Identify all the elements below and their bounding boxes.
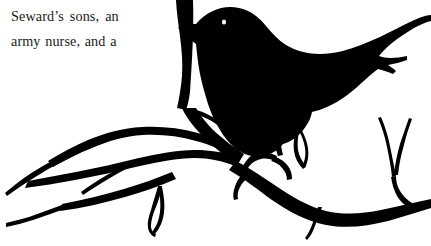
crow-eye xyxy=(222,19,226,24)
branch-trunk-top xyxy=(176,0,193,110)
branch-twig-fork-right-b xyxy=(394,118,412,175)
crow-on-branch-illustration xyxy=(0,0,431,246)
illustrated-text-page: Seward’s sons, an army nurse, and a xyxy=(0,0,431,246)
branch-twig-fork-right-stem xyxy=(391,176,412,208)
branch-twig-fork-right-a xyxy=(378,117,396,177)
branch-twig-lower-left xyxy=(6,205,64,227)
crow-foot-back xyxy=(271,157,292,180)
crow-eye-group xyxy=(222,19,226,24)
